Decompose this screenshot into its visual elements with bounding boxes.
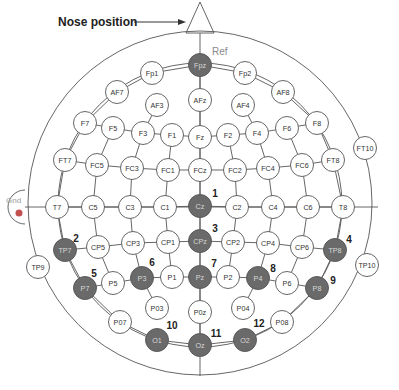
- electrode-c3[interactable]: C3: [119, 196, 142, 219]
- electrode-label: FT10: [357, 144, 374, 153]
- electrode-c4[interactable]: C4: [262, 196, 285, 219]
- electrode-t7[interactable]: T7: [46, 196, 69, 219]
- channel-number: 12: [253, 318, 265, 329]
- electrode-afz[interactable]: AFz: [189, 89, 212, 112]
- electrode-fc3[interactable]: FC3: [121, 157, 144, 180]
- electrode-c6[interactable]: C6: [297, 196, 320, 219]
- electrode-p5[interactable]: P5: [102, 272, 125, 295]
- electrode-p07[interactable]: P07: [109, 311, 132, 334]
- electrode-cp4[interactable]: CP4: [257, 232, 280, 255]
- electrode-fpz[interactable]: Fpz: [189, 54, 212, 77]
- electrode-fc6[interactable]: FC6: [291, 154, 314, 177]
- electrode-o2[interactable]: O2: [234, 329, 257, 352]
- electrode-label: P8: [313, 284, 322, 293]
- electrode-cp1[interactable]: CP1: [157, 231, 180, 254]
- electrode-tp10[interactable]: TP10: [356, 254, 379, 277]
- electrode-c1[interactable]: C1: [154, 196, 177, 219]
- electrode-cp3[interactable]: CP3: [122, 232, 145, 255]
- electrode-label: Cz: [196, 202, 205, 211]
- electrode-fc4[interactable]: FC4: [257, 157, 280, 180]
- electrode-cz[interactable]: Cz: [189, 195, 212, 218]
- electrode-label: P08: [276, 318, 289, 327]
- electrode-p3[interactable]: P3: [131, 267, 154, 290]
- channel-number: 3: [212, 223, 218, 234]
- electrode-f6[interactable]: F6: [276, 117, 299, 140]
- electrode-tp8[interactable]: TP8: [324, 239, 347, 262]
- electrode-label: FC1: [161, 166, 175, 175]
- electrode-label: CP6: [295, 243, 309, 252]
- electrode-label: FC5: [90, 161, 104, 170]
- electrode-p08[interactable]: P08: [271, 311, 294, 334]
- electrode-label: FC2: [228, 166, 242, 175]
- electrode-p03[interactable]: P03: [146, 297, 169, 320]
- electrode-p1[interactable]: P1: [161, 266, 184, 289]
- electrode-cp6[interactable]: CP6: [291, 236, 314, 259]
- electrode-p04[interactable]: P04: [232, 297, 255, 320]
- electrode-f5[interactable]: F5: [102, 117, 125, 140]
- electrode-f3[interactable]: F3: [132, 122, 155, 145]
- electrode-p2[interactable]: P2: [217, 266, 240, 289]
- electrode-label: F1: [168, 131, 176, 140]
- electrode-f4[interactable]: F4: [246, 122, 269, 145]
- electrode-label: O2: [240, 336, 250, 345]
- electrode-o1[interactable]: O1: [146, 329, 169, 352]
- electrode-label: AF8: [276, 88, 289, 97]
- electrode-c2[interactable]: C2: [226, 196, 249, 219]
- channel-number: 8: [270, 263, 276, 274]
- electrode-f1[interactable]: F1: [161, 124, 184, 147]
- electrode-label: P7: [81, 284, 90, 293]
- electrode-t8[interactable]: T8: [332, 196, 355, 219]
- electrode-fc1[interactable]: FC1: [157, 159, 180, 182]
- channel-number: 5: [91, 268, 97, 279]
- electrode-label: P04: [237, 304, 250, 313]
- electrode-ft7[interactable]: FT7: [54, 149, 77, 172]
- electrode-p7[interactable]: P7: [74, 277, 97, 300]
- electrode-f7[interactable]: F7: [74, 112, 97, 135]
- electrode-label: AFz: [194, 96, 207, 105]
- electrode-tp9[interactable]: TP9: [27, 256, 50, 279]
- electrode-af7[interactable]: AF7: [106, 81, 129, 104]
- electrode-f2[interactable]: F2: [217, 124, 240, 147]
- electrode-f8[interactable]: F8: [306, 112, 329, 135]
- electrode-p4[interactable]: P4: [247, 267, 270, 290]
- electrode-cp5[interactable]: CP5: [87, 236, 110, 259]
- electrode-cpz[interactable]: CPz: [189, 230, 212, 253]
- nose-position-label: Nose position: [58, 15, 137, 29]
- electrode-label: T8: [339, 203, 347, 212]
- electrode-fcz[interactable]: FCz: [189, 159, 212, 182]
- electrode-label: CP5: [91, 243, 105, 252]
- electrode-label: C2: [232, 203, 241, 212]
- electrode-ft10[interactable]: FT10: [354, 137, 377, 160]
- gnd-electrode[interactable]: Gnd: [6, 190, 25, 224]
- electrode-label: FC6: [295, 161, 309, 170]
- electrode-fc5[interactable]: FC5: [86, 154, 109, 177]
- electrode-label: F3: [139, 129, 147, 138]
- electrode-fc2[interactable]: FC2: [224, 159, 247, 182]
- electrode-fp1[interactable]: Fp1: [141, 62, 164, 85]
- electrode-label: CPz: [193, 237, 207, 246]
- gnd-label: Gnd: [6, 196, 21, 205]
- electrode-label: C4: [268, 203, 277, 212]
- electrode-label: F4: [253, 129, 261, 138]
- electrode-cp2[interactable]: CP2: [222, 231, 245, 254]
- electrode-label: P3: [138, 274, 147, 283]
- electrode-c5[interactable]: C5: [82, 196, 105, 219]
- electrode-label: P2: [224, 273, 233, 282]
- electrode-fz[interactable]: Fz: [189, 126, 212, 149]
- electrode-af4[interactable]: AF4: [232, 94, 255, 117]
- electrode-af3[interactable]: AF3: [146, 94, 169, 117]
- nose-triangle-icon: [186, 2, 214, 33]
- electrode-label: C6: [303, 203, 312, 212]
- electrode-fp2[interactable]: Fp2: [234, 62, 257, 85]
- electrode-p0z[interactable]: P0z: [189, 301, 212, 324]
- electrode-p8[interactable]: P8: [306, 277, 329, 300]
- electrode-ft8[interactable]: FT8: [322, 149, 345, 172]
- electrode-af8[interactable]: AF8: [272, 81, 295, 104]
- electrode-p6[interactable]: P6: [276, 272, 299, 295]
- electrodes: Fp1FpzFp2AF7AFzAF8AF3AF4F7F5F3F1FzF2F4F6…: [27, 54, 379, 357]
- electrode-label: P4: [254, 274, 263, 283]
- electrode-label: Fpz: [194, 61, 206, 70]
- electrode-pz[interactable]: Pz: [189, 266, 212, 289]
- electrode-oz[interactable]: Oz: [189, 334, 212, 357]
- electrode-label: P0z: [194, 308, 207, 317]
